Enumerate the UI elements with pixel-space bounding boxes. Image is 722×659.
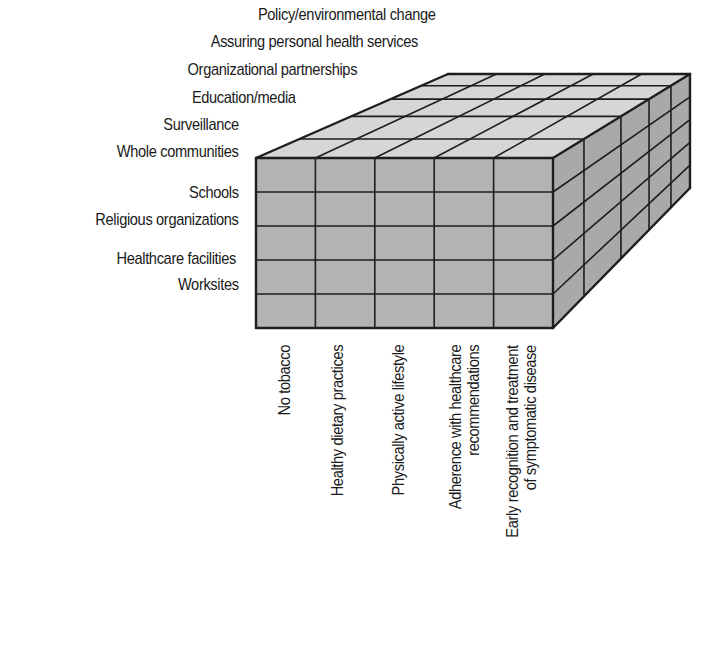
behavior-label-adherence: Adherence with healthcare recommendation… bbox=[447, 345, 483, 536]
setting-label-whole-communities: Whole communities bbox=[97, 143, 239, 160]
behavior-label-healthy-diet: Healthy dietary practices bbox=[329, 345, 347, 521]
setting-label-religious-organizations: Religious organizations bbox=[72, 211, 239, 228]
intervention-label-education: Education/media bbox=[175, 89, 296, 106]
setting-label-schools: Schools bbox=[181, 184, 239, 201]
cube-diagram bbox=[0, 0, 722, 659]
behavior-label-early-recognition: Early recognition and treatment of sympt… bbox=[504, 345, 540, 569]
setting-label-healthcare-facilities: Healthcare facilities bbox=[97, 250, 236, 267]
front-face bbox=[256, 158, 553, 328]
behavior-label-no-tobacco: No tobacco bbox=[276, 345, 294, 427]
behavior-label-physical-activity: Physically active lifestyle bbox=[390, 345, 408, 520]
intervention-label-partnerships: Organizational partnerships bbox=[160, 61, 357, 78]
intervention-label-assuring-services: Assuring personal health services bbox=[177, 33, 418, 50]
intervention-label-surveillance: Surveillance bbox=[151, 116, 239, 133]
setting-label-worksites: Worksites bbox=[168, 276, 239, 293]
intervention-label-policy: Policy/environmental change bbox=[229, 6, 436, 23]
